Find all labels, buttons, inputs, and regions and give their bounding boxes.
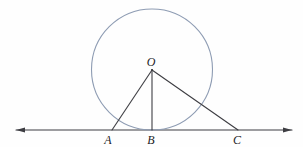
center-point [151,69,153,71]
label-C: C [233,133,242,147]
geometry-diagram: O A B C [0,0,303,147]
label-A: A [103,133,112,147]
left-arrowhead [16,127,25,132]
right-arrowhead [283,127,292,132]
geometry-figure: O A B C [0,0,303,147]
label-B: B [147,133,155,147]
segment-OA [112,70,152,130]
label-O: O [147,55,156,69]
segment-OC [152,70,238,130]
